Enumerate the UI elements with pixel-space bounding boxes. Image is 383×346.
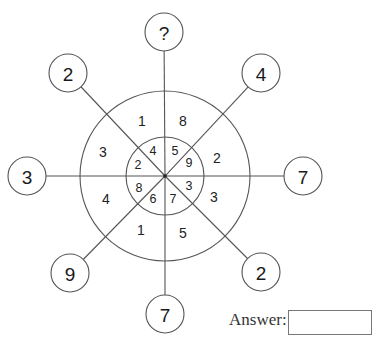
spoke-bottom-left [70, 176, 165, 273]
outer-segment-value: 4 [102, 191, 110, 207]
spoke-top [164, 32, 165, 176]
node-right: 7 [284, 157, 322, 195]
node-value: 7 [160, 305, 171, 326]
node-value: 7 [298, 167, 309, 188]
node-value: ? [159, 23, 170, 44]
node-top: ? [145, 13, 183, 51]
outer-segment-value: 3 [210, 189, 218, 205]
outer-segment-value: 1 [138, 113, 146, 129]
node-bottom-right: 2 [242, 253, 280, 291]
inner-segment-value: 4 [150, 144, 157, 158]
node-value: 2 [256, 263, 267, 284]
center-dot [163, 174, 167, 178]
spoke-top-left [68, 73, 165, 176]
outer-segment-value: 2 [213, 150, 221, 166]
node-top-left: 2 [49, 54, 87, 92]
inner-segment-value: 3 [186, 179, 193, 193]
node-value: 2 [63, 64, 74, 85]
inner-segment-value: 2 [135, 158, 142, 172]
node-left: 3 [8, 157, 46, 195]
outer-segment-value: 3 [99, 144, 107, 160]
inner-segment-value: 9 [186, 156, 193, 170]
inner-segment-value: 5 [172, 144, 179, 158]
node-value: 9 [65, 264, 76, 285]
node-bottom-left: 9 [51, 254, 89, 292]
node-top-right: 4 [242, 54, 280, 92]
inner-segment-value: 8 [136, 181, 143, 195]
number-wheel-puzzle: 18235143 45937682 ?4727932 [0, 0, 383, 346]
inner-segment-value: 6 [150, 192, 157, 206]
outer-segment-value: 1 [137, 222, 145, 238]
node-bottom: 7 [146, 295, 184, 333]
outer-segment-value: 8 [179, 113, 187, 129]
node-value: 3 [22, 167, 33, 188]
answer-input[interactable] [288, 310, 372, 335]
outer-segment-values: 18235143 [99, 113, 221, 241]
outer-segment-value: 5 [179, 225, 187, 241]
answer-label: Answer: [229, 310, 287, 330]
node-value: 4 [256, 64, 267, 85]
inner-segment-value: 7 [170, 192, 177, 206]
